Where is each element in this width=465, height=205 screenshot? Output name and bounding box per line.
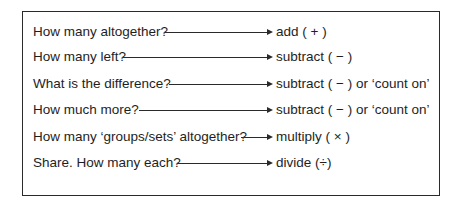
- operation-text: subtract ( − ) or ‘count on’: [276, 74, 429, 94]
- mapping-row-add: How many altogether? add ( + ): [0, 22, 465, 42]
- mapping-row-more: How much more? subtract ( − ) or ‘count …: [0, 100, 465, 120]
- mapping-row-multiply: How many ‘groups/sets’ altogether? multi…: [0, 127, 465, 147]
- operation-text: subtract ( − ) or ‘count on’: [276, 100, 429, 120]
- question-text: Share. How many each?: [33, 153, 181, 173]
- arrow-right-icon: [123, 56, 273, 58]
- mapping-row-divide: Share. How many each? divide (÷): [0, 153, 465, 173]
- question-text: How many altogether?: [33, 22, 168, 42]
- arrow-right-icon: [139, 109, 273, 111]
- mapping-row-subtract-left: How many left? subtract ( − ): [0, 47, 465, 67]
- arrow-right-icon: [165, 31, 273, 33]
- question-text: How many left?: [33, 47, 126, 67]
- operation-text: subtract ( − ): [276, 47, 352, 67]
- mapping-row-difference: What is the difference? subtract ( − ) o…: [0, 74, 465, 94]
- operation-text: multiply ( × ): [276, 127, 350, 147]
- arrow-right-icon: [177, 162, 273, 164]
- arrow-right-icon: [241, 136, 273, 138]
- arrow-right-icon: [169, 83, 273, 85]
- question-text: How much more?: [33, 100, 139, 120]
- question-text: How many ‘groups/sets’ altogether?: [33, 127, 247, 147]
- operation-text: divide (÷): [276, 153, 331, 173]
- question-text: What is the difference?: [33, 74, 171, 94]
- operation-text: add ( + ): [276, 22, 327, 42]
